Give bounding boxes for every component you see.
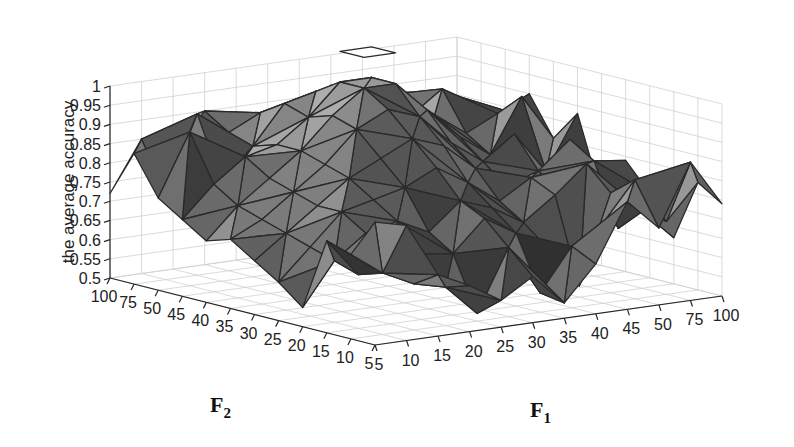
side-wall-grid-line [457,37,722,104]
y-tick-mark [131,284,134,290]
x-tick-mark [533,323,535,329]
x-tick-mark [438,336,440,342]
x-tick-mark [627,309,629,315]
x-tick-mark [659,305,661,311]
x-tick-labels: 510152025303540455075100 [375,307,740,373]
x-tick-label: 75 [686,311,704,328]
y-tick-label: 10 [336,349,354,366]
z-tick-label: 0.9 [79,116,101,133]
y-tick-label: 45 [167,306,185,323]
x-tick-mark [375,345,377,351]
x-tick-label: 45 [622,320,640,337]
surface-facet [110,139,142,193]
y-tick-mark [227,308,230,314]
x-tick-label: 50 [654,316,672,333]
y-tick-mark [324,333,327,339]
z-tick-mark [104,105,110,107]
x-tick-label: 15 [433,347,451,364]
surface [110,47,722,314]
y-tick-label: 50 [143,300,161,317]
z-tick-mark [104,182,110,184]
z-tick-mark [104,240,110,242]
z-tick-label: 1 [92,78,101,95]
x-tick-label: 40 [591,325,609,342]
x-tick-label: 100 [713,307,740,324]
x-tick-mark [470,332,472,338]
x-tick-mark [501,327,503,333]
x-tick-mark [690,300,692,306]
y-tick-mark [203,302,206,308]
z-tick-mark [104,220,110,222]
x-tick-mark [596,314,598,320]
y-tick-label: 5 [365,355,374,372]
y-tick-label: 20 [288,337,306,354]
y-tick-label: 75 [119,294,137,311]
z-tick-label: 0.5 [79,270,101,287]
x-axis-title: F1 [530,397,551,426]
z-tick-mark [104,259,110,261]
back-wall-grid-line [110,37,457,86]
y-axis-title-main: F [210,392,223,417]
clipped-top-cell [340,47,396,58]
x-tick-mark [407,341,409,347]
y-tick-mark [276,321,279,327]
z-axis-title: the average accuracy [59,100,78,263]
x-tick-label: 25 [496,338,514,355]
y-tick-label: 15 [312,343,330,360]
x-tick-label: 10 [402,352,420,369]
y-axis-title: F2 [210,392,231,421]
x-axis-title-main: F [530,397,543,422]
y-tick-label: 30 [240,325,258,342]
x-tick-mark [564,318,566,324]
z-tick-label: 0.7 [79,193,101,210]
y-tick-label: 25 [264,331,282,348]
y-tick-label: 35 [216,318,234,335]
y-tick-labels: 510152025303540455075100 [91,288,374,372]
z-tick-mark [104,86,110,88]
y-tick-mark [372,345,375,351]
x-tick-label: 35 [559,329,577,346]
x-tick-label: 5 [375,356,384,373]
y-tick-mark [252,315,255,321]
z-tick-mark [104,124,110,126]
x-tick-label: 20 [465,343,483,360]
x-axis-title-sub: 1 [543,410,551,426]
z-tick-mark [104,201,110,203]
x-tick-mark [722,296,724,302]
y-tick-label: 100 [91,288,118,305]
y-axis-title-sub: 2 [223,405,231,421]
surface-chart: 0.50.550.60.650.70.750.80.850.90.951 510… [0,0,794,447]
z-tick-mark [104,163,110,165]
z-tick-mark [104,144,110,146]
y-tick-label: 40 [191,312,209,329]
x-tick-label: 30 [528,334,546,351]
y-tick-mark [155,290,158,296]
z-tick-label: 0.6 [79,232,101,249]
z-tick-label: 0.8 [79,155,101,172]
y-tick-mark [348,339,351,345]
y-tick-mark [300,327,303,333]
y-tick-mark [179,296,182,302]
